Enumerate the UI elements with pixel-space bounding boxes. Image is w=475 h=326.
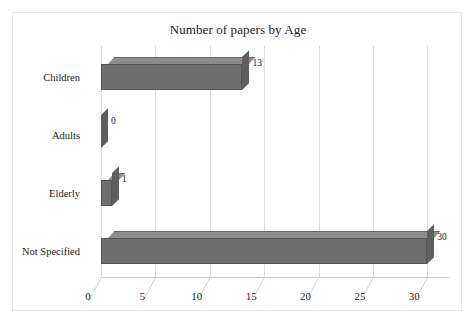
bar [101, 57, 249, 83]
x-axis-tick-label: 5 [127, 290, 157, 302]
x-axis-tick-label: 30 [399, 290, 429, 302]
category-label: Children [43, 72, 80, 83]
x-axis-tick-label: 0 [73, 290, 103, 302]
bar [101, 231, 434, 257]
bar [101, 173, 119, 199]
bar-side-face [101, 108, 108, 148]
bar-value-label: 0 [111, 116, 116, 126]
category-label: Elderly [49, 188, 80, 199]
bar-value-label: 13 [252, 58, 262, 68]
bar-side-face [112, 166, 119, 206]
x-axis-tick-label: 15 [236, 290, 266, 302]
chart-screenshot: Number of papers by Age 051015202530Chil… [0, 0, 475, 326]
bar-front-face [101, 64, 242, 90]
x-axis-tick-label: 10 [182, 290, 212, 302]
bar-front-face [101, 238, 427, 264]
chart-frame: Number of papers by Age 051015202530Chil… [12, 12, 462, 311]
chart-title: Number of papers by Age [13, 22, 463, 38]
bar-value-label: 30 [437, 232, 447, 242]
category-label: Not Specified [22, 246, 80, 257]
x-axis-tick-label: 20 [291, 290, 321, 302]
bar [101, 115, 108, 141]
bar-top-face [108, 231, 441, 238]
bar-value-label: 1 [122, 174, 127, 184]
bar-top-face [108, 57, 256, 64]
category-label: Adults [52, 130, 80, 141]
x-axis-tick-label: 25 [345, 290, 375, 302]
bar-front-face [101, 180, 112, 206]
